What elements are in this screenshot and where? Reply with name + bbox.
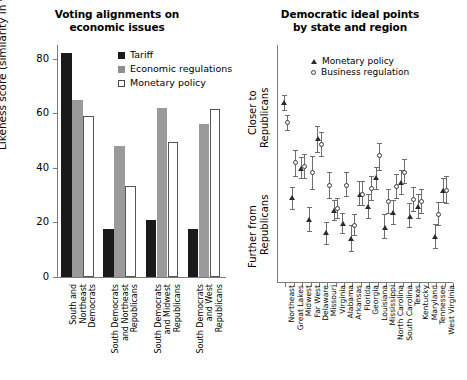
error-bar-cap-top: [290, 187, 295, 188]
error-bar-cap-top: [411, 187, 416, 188]
point-marker-business-regulation: [285, 120, 290, 125]
left-y-tick: [53, 222, 57, 223]
error-bar-cap-bottom: [285, 130, 290, 131]
error-bar-cap-top: [419, 189, 424, 190]
left-title-line-2: economic issues: [0, 21, 234, 34]
right-chart-panel: Democratic ideal points by state and reg…: [233, 0, 467, 380]
bar-econ: [199, 124, 210, 277]
right-state-label: Georgia: [372, 285, 380, 359]
left-category-label-line: Republicans: [215, 284, 224, 372]
error-bar-cap-bottom: [366, 218, 371, 219]
left-category-label-line: Republicans: [130, 284, 139, 372]
error-bar-cap-bottom: [349, 251, 354, 252]
left-chart-panel: Voting alignments on economic issues Lik…: [0, 0, 234, 380]
left-category-label: South Democratsand MidwestRepublicans: [146, 282, 180, 374]
point-marker-business-regulation: [352, 223, 357, 228]
bar-econ: [114, 146, 125, 277]
error-bar-cap-bottom: [369, 200, 374, 201]
left-category-label-line: and Midwest: [163, 284, 172, 372]
point-marker-business-regulation: [310, 170, 315, 175]
right-title-line-2: by state and region: [233, 21, 467, 34]
left-category-label-line: Republicans: [173, 284, 182, 372]
error-bar-cap-top: [340, 213, 345, 214]
left-category-label-line: South and: [69, 284, 78, 372]
error-bar-cap-bottom: [310, 189, 315, 190]
error-bar-cap-top: [394, 174, 399, 175]
error-bar-cap-bottom: [377, 170, 382, 171]
error-bar-cap-top: [319, 132, 324, 133]
left-y-axis-line: [57, 45, 58, 278]
point-marker-business-regulation: [327, 183, 332, 188]
point-marker-monetary-policy: [323, 230, 329, 235]
bar-monetary: [168, 142, 179, 277]
point-marker-business-regulation: [293, 160, 298, 165]
bar-tariff: [61, 53, 72, 277]
point-marker-business-regulation: [360, 192, 365, 197]
left-category-label-line: South Democrats: [154, 284, 163, 372]
right-y-axis-line: [277, 45, 278, 283]
point-marker-monetary-policy: [340, 221, 346, 226]
point-marker-monetary-policy: [281, 100, 287, 105]
left-y-tick: [53, 168, 57, 169]
point-marker-monetary-policy: [390, 210, 396, 215]
point-marker-monetary-policy: [348, 236, 354, 241]
error-bar-cap-bottom: [290, 209, 295, 210]
error-bar-cap-top: [386, 189, 391, 190]
error-bar-cap-bottom: [399, 194, 404, 195]
error-bar-cap-bottom: [374, 189, 379, 190]
left-category-label-line: and West: [205, 284, 214, 372]
error-bar-cap-bottom: [340, 233, 345, 234]
error-bar-cap-top: [315, 126, 320, 127]
point-marker-business-regulation: [386, 199, 391, 204]
point-marker-monetary-policy: [365, 204, 371, 209]
error-bar-cap-top: [293, 150, 298, 151]
left-category-label-line: and Northeast: [121, 284, 130, 372]
error-bar-cap-top: [344, 172, 349, 173]
error-bar-cap-top: [285, 115, 290, 116]
point-marker-business-regulation: [344, 183, 349, 188]
error-bar-cap-top: [444, 176, 449, 177]
error-bar-cap-bottom: [402, 183, 407, 184]
right-axis-label-closer-line-2: Republicans: [259, 88, 271, 148]
point-marker-business-regulation: [302, 164, 307, 169]
error-bar-cap-bottom: [335, 218, 340, 219]
error-bar-cap-bottom: [382, 238, 387, 239]
error-bar-cap-bottom: [419, 213, 424, 214]
error-bar-cap-bottom: [352, 235, 357, 236]
left-category-label-line: Northeast: [79, 284, 88, 372]
error-bar-cap-bottom: [391, 224, 396, 225]
right-chart-title: Democratic ideal points by state and reg…: [233, 8, 467, 34]
error-bar-cap-bottom: [307, 231, 312, 232]
figure-root: Voting alignments on economic issues Lik…: [0, 0, 467, 380]
bar-tariff: [188, 229, 199, 277]
right-axis-label-closer-line-1: Closer to: [247, 90, 259, 135]
error-bar-cap-bottom: [332, 220, 337, 221]
left-category-label: South andNortheastDemocrats: [61, 282, 95, 374]
right-state-label: Midwest: [305, 285, 313, 359]
bar-tariff: [146, 220, 157, 277]
point-marker-business-regulation: [369, 186, 374, 191]
error-bar-cap-bottom: [282, 110, 287, 111]
right-axis-label-further-line-2: Republicans: [259, 195, 271, 255]
left-y-tick-label: 0: [27, 272, 49, 282]
error-bar-cap-bottom: [411, 211, 416, 212]
error-bar-cap-bottom: [416, 218, 421, 219]
left-y-tick: [53, 113, 57, 114]
error-bar-cap-top: [352, 214, 357, 215]
error-bar-cap-bottom: [386, 213, 391, 214]
error-bar-cap-bottom: [344, 196, 349, 197]
error-bar-cap-bottom: [394, 198, 399, 199]
error-bar-cap-top: [369, 176, 374, 177]
point-marker-monetary-policy: [373, 175, 379, 180]
error-bar-cap-bottom: [324, 244, 329, 245]
bar-monetary: [125, 186, 136, 277]
left-category-label-line: Democrats: [88, 284, 97, 372]
bar-econ: [72, 100, 83, 277]
left-plot-area: 020406080: [57, 45, 226, 278]
right-axis-label-further-line-1: Further from: [247, 205, 259, 268]
point-marker-business-regulation: [411, 197, 416, 202]
point-marker-business-regulation: [419, 199, 424, 204]
point-marker-monetary-policy: [432, 234, 438, 239]
right-plot-area: [277, 45, 453, 283]
left-category-label-line: South Democrats: [111, 284, 120, 372]
